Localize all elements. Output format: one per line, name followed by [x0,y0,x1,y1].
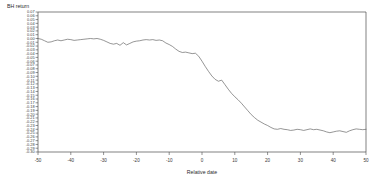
y-axis-ticks: 0.070.060.050.040.030.020.010.00-0.01-0.… [26,9,38,154]
x-tick-label: -50 [35,158,42,163]
x-tick-label: -30 [100,158,107,163]
x-axis-title: Relative date [187,169,217,175]
x-tick-label: 20 [265,158,271,163]
x-tick-label: -20 [133,158,140,163]
series-line-bh-return [38,38,366,132]
x-tick-label: 30 [298,158,304,163]
x-tick-label: 10 [232,158,238,163]
y-tick-label: -0.30 [26,149,36,154]
x-tick-label: -10 [166,158,173,163]
chart-figure: BH return Relative date 0.070.060.050.04… [0,0,381,177]
data-series-group [38,38,366,132]
x-tick-label: 0 [201,158,204,163]
bh-return-line-chart: BH return Relative date 0.070.060.050.04… [0,0,381,177]
x-tick-label: 40 [331,158,337,163]
y-axis-title: BH return [7,3,29,9]
x-axis-ticks: -50-40-30-20-1001020304050 [35,152,369,163]
x-tick-label: 50 [363,158,369,163]
plot-frame [38,12,366,152]
x-tick-label: -40 [67,158,74,163]
